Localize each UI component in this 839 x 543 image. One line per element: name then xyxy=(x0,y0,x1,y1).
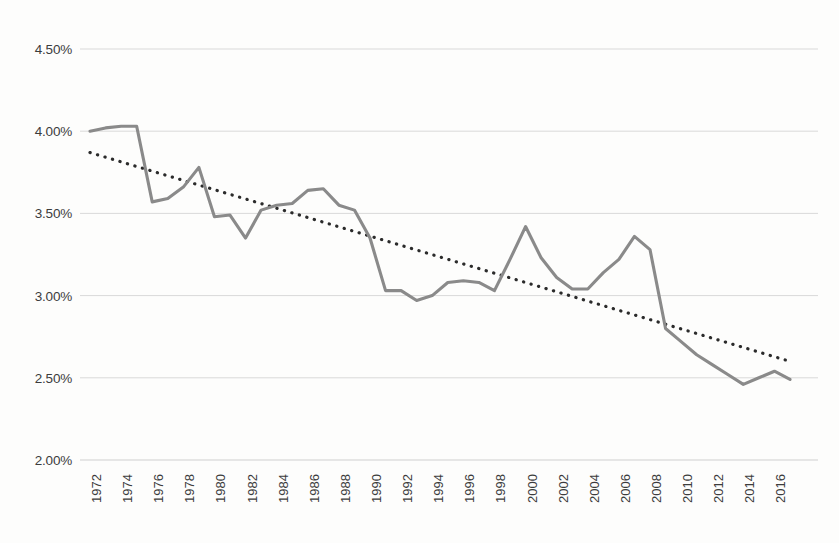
x-axis-tick-label: 2006 xyxy=(617,474,632,503)
x-axis-tick-label: 1994 xyxy=(431,474,446,503)
x-axis-tick-label: 1990 xyxy=(369,474,384,503)
line-chart: 4.50%4.00%3.50%3.00%2.50%2.00% 197219741… xyxy=(0,0,839,543)
x-axis-tick-label: 2010 xyxy=(680,474,695,503)
data-series-line xyxy=(90,126,790,384)
gridlines xyxy=(80,49,818,460)
trendline-series xyxy=(90,153,790,362)
x-axis-tick-label: 1998 xyxy=(493,474,508,503)
x-axis-tick-label: 2016 xyxy=(773,474,788,503)
chart-plot-area xyxy=(0,0,839,543)
x-axis-labels: 1972197419761978198019821984198619881990… xyxy=(0,474,839,543)
x-axis-tick-label: 1984 xyxy=(275,474,290,503)
x-axis-tick-label: 1986 xyxy=(306,474,321,503)
x-axis-tick-label: 1988 xyxy=(337,474,352,503)
x-axis-tick-label: 2014 xyxy=(742,474,757,503)
x-axis-tick-label: 2012 xyxy=(711,474,726,503)
x-axis-tick-label: 2004 xyxy=(586,474,601,503)
x-axis-tick-label: 1996 xyxy=(462,474,477,503)
x-axis-tick-label: 2002 xyxy=(555,474,570,503)
x-axis-tick-label: 1972 xyxy=(89,474,104,503)
x-axis-tick-label: 2008 xyxy=(649,474,664,503)
x-axis-tick-label: 1980 xyxy=(213,474,228,503)
x-axis-tick-label: 2000 xyxy=(524,474,539,503)
x-axis-tick-label: 1978 xyxy=(182,474,197,503)
x-axis-tick-label: 1992 xyxy=(400,474,415,503)
x-axis-tick-label: 1976 xyxy=(151,474,166,503)
x-axis-tick-label: 1982 xyxy=(244,474,259,503)
x-axis-tick-label: 1974 xyxy=(120,474,135,503)
